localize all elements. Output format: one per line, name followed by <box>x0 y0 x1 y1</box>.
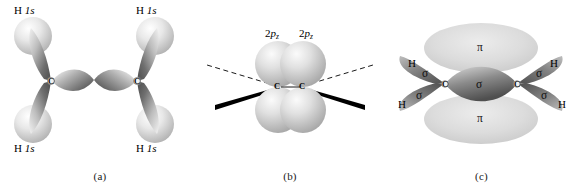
sigma-label-lower-left: σ <box>416 90 422 102</box>
pi-label-top: π <box>477 42 483 54</box>
panel-b-graphic <box>195 0 385 160</box>
pz-lobe-right-lower <box>280 87 326 133</box>
panel-c-caption: (c) <box>378 170 585 182</box>
panel-c-sigma-pi-framework: C C H H H H σ σ σ σ σ π π (c) <box>378 0 585 185</box>
sigma-label-lower-right: σ <box>541 90 547 102</box>
sigma-label-upper-right: σ <box>536 68 542 80</box>
hydrogen-label-lower-right: H <box>558 99 566 110</box>
sigma-label-upper-left: σ <box>422 68 428 80</box>
pi-label-bottom: π <box>477 113 483 125</box>
panel-a-sp2-overlap: C C H 1s H 1s H 1s H 1s (a) <box>0 0 200 185</box>
sp2-lobe-right-inner <box>94 70 136 91</box>
pz-label-left: 2pz <box>265 28 279 40</box>
carbon-label-right: C <box>299 82 305 91</box>
h-1s-label-bottom-right: H 1s <box>136 143 156 154</box>
sp2-lobe-left-inner <box>52 70 94 91</box>
h-1s-label-top-left: H 1s <box>14 5 34 16</box>
hydrogen-label-lower-left: H <box>398 99 406 110</box>
carbon-label-left: C <box>442 80 448 89</box>
carbon-label-right: C <box>514 80 520 89</box>
carbon-label-left: C <box>48 77 54 86</box>
orbital-diagram-figure: C C H 1s H 1s H 1s H 1s (a) <box>0 0 585 185</box>
panel-b-caption: (b) <box>195 170 385 182</box>
panel-a-graphic <box>0 0 200 160</box>
h-1s-label-bottom-left: H 1s <box>14 143 34 154</box>
panel-b-2pz-orbitals: C C 2pz 2pz (b) <box>195 0 385 185</box>
pz-label-right: 2pz <box>299 28 313 40</box>
hydrogen-label-upper-right: H <box>550 58 558 69</box>
sigma-label-cc-bond: σ <box>476 79 482 91</box>
hydrogen-label-upper-left: H <box>408 58 416 69</box>
carbon-label-left: C <box>274 82 280 91</box>
h-1s-label-top-right: H 1s <box>136 5 156 16</box>
panel-a-caption: (a) <box>0 170 200 182</box>
carbon-label-right: C <box>134 77 140 86</box>
